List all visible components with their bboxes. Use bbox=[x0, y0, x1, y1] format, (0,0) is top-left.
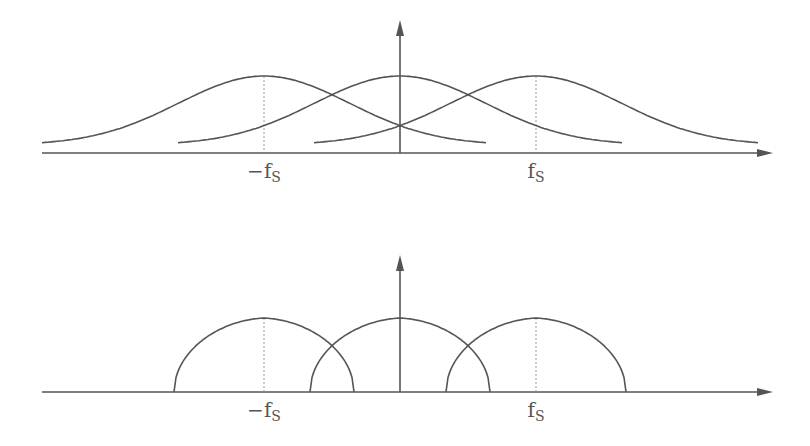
axis-arrow-icon bbox=[757, 149, 773, 157]
label-text: −f bbox=[247, 159, 271, 183]
label-subscript: S bbox=[535, 169, 545, 185]
frequency-label: −fS bbox=[247, 159, 281, 185]
spectrum-diagram bbox=[0, 0, 810, 446]
frequency-label: −fS bbox=[247, 398, 281, 424]
label-text: −f bbox=[247, 398, 271, 422]
label-subscript: S bbox=[271, 408, 281, 424]
axis-arrow-icon bbox=[757, 388, 773, 396]
frequency-label: fS bbox=[528, 398, 545, 424]
label-subscript: S bbox=[535, 408, 545, 424]
axis-arrow-icon bbox=[396, 255, 404, 271]
frequency-label: fS bbox=[528, 159, 545, 185]
axis-arrow-icon bbox=[396, 20, 404, 36]
label-subscript: S bbox=[271, 169, 281, 185]
